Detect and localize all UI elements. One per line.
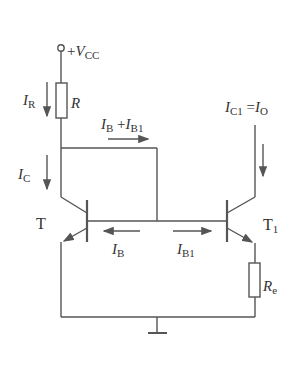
svg-text:T1: T1 bbox=[263, 216, 278, 235]
circuit-diagram: +VCC R IR IC IB +IB1 bbox=[0, 0, 295, 372]
current-ir-indicator: IR bbox=[22, 82, 47, 116]
vcc-plus: + bbox=[67, 43, 75, 59]
vcc-subscript: CC bbox=[85, 49, 100, 61]
transistor-t1: T1 bbox=[227, 125, 278, 263]
svg-text:IB +IB1: IB +IB1 bbox=[100, 116, 143, 134]
current-ic1-io-indicator: IC1 =IO bbox=[224, 99, 268, 176]
ground-wire bbox=[61, 317, 255, 333]
resistor-r: R bbox=[56, 83, 80, 118]
transistor-t1-label: T bbox=[263, 216, 273, 233]
transistor-t-label: T bbox=[36, 215, 46, 232]
current-ib-plus-ib1-indicator: IB +IB1 bbox=[100, 116, 148, 139]
base-feedback-wire bbox=[61, 148, 157, 221]
svg-text:IB: IB bbox=[111, 241, 124, 259]
svg-text:IR: IR bbox=[22, 92, 36, 110]
resistor-re-label: R bbox=[262, 278, 272, 294]
svg-text:+VCC: +VCC bbox=[67, 43, 99, 61]
svg-text:IC1 =IO: IC1 =IO bbox=[224, 99, 268, 117]
resistor-r-label: R bbox=[70, 95, 80, 111]
vcc-terminal: +VCC bbox=[58, 43, 100, 61]
svg-text:IB1: IB1 bbox=[176, 241, 195, 259]
current-ib1-indicator: IB1 bbox=[173, 231, 211, 259]
svg-text:Re: Re bbox=[262, 278, 277, 296]
resistor-re: Re bbox=[249, 263, 277, 317]
current-ic-indicator: IC bbox=[17, 155, 47, 189]
current-ib-indicator: IB bbox=[104, 231, 140, 259]
transistor-t: T bbox=[36, 197, 87, 317]
svg-text:IC: IC bbox=[17, 166, 30, 184]
